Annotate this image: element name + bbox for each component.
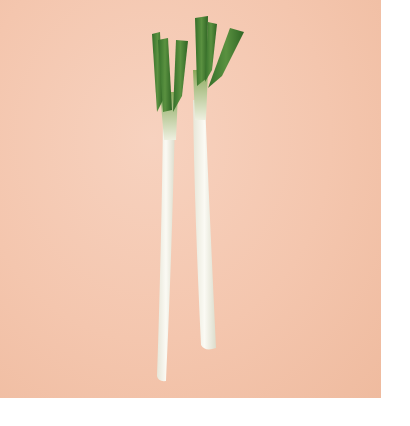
green-onions-illustration [0, 0, 410, 426]
right-green-onion [193, 16, 244, 349]
left-green-onion [152, 32, 188, 381]
